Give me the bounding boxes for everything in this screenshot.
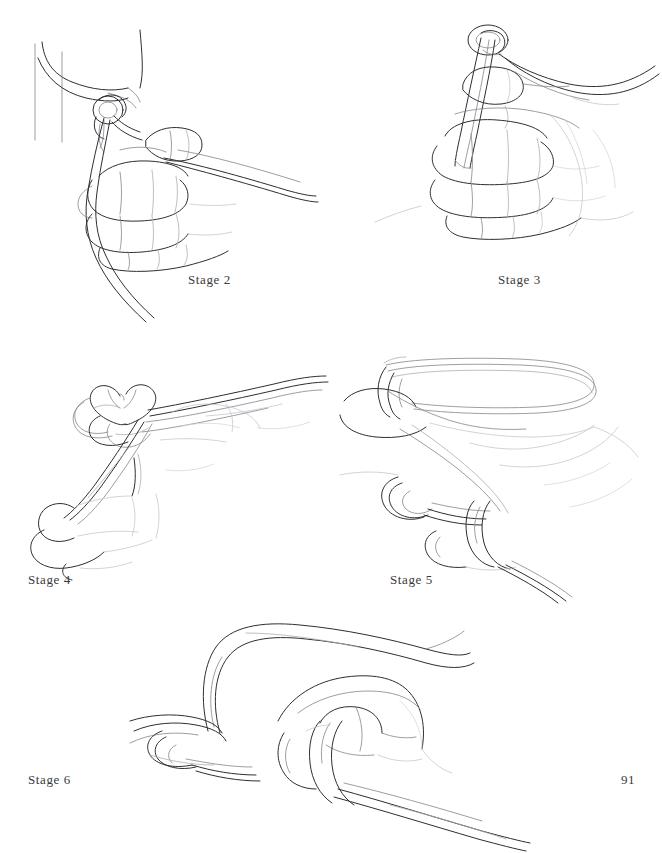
page-number: 91 (621, 772, 635, 788)
back-of-hand (400, 425, 638, 513)
palm-contour (549, 114, 633, 236)
rope-strands-right (142, 376, 328, 432)
left-loops (130, 715, 260, 781)
rope-turn-left (378, 367, 402, 419)
figure-stage-5 (340, 345, 662, 585)
caption-stage-2: Stage 2 (188, 272, 231, 288)
stage-5-illustration (340, 345, 662, 585)
ring-loop (468, 25, 508, 55)
captured-loop (340, 472, 490, 525)
standing-part (334, 783, 530, 851)
hitch-knot (93, 95, 142, 152)
stage-3-illustration (355, 10, 662, 290)
figure-stage-4 (20, 350, 340, 580)
fist (430, 120, 581, 240)
tangle-loops (73, 398, 150, 447)
caption-stage-5: Stage 5 (390, 572, 433, 588)
stray-rope-line (375, 206, 421, 222)
hand (31, 404, 310, 580)
rope-strands-upper-right (499, 54, 659, 105)
figure-stage-2 (0, 0, 340, 300)
rope-collar (278, 721, 354, 805)
fist (86, 147, 236, 271)
stage-2-illustration (0, 0, 340, 300)
rope-bight (384, 357, 596, 414)
fingertip (425, 531, 516, 570)
caption-stage-3: Stage 3 (498, 272, 541, 288)
book-page: Stage 2 Stage 3 Stage 4 Stage 5 Stage 6 … (0, 0, 662, 853)
stage-6-illustration (130, 605, 550, 815)
caption-stage-6: Stage 6 (28, 772, 71, 788)
figure-stage-6 (130, 605, 550, 815)
fist-top-view (278, 676, 452, 773)
figure-stage-3 (355, 10, 662, 290)
strands-lower-right (498, 561, 572, 603)
bight-loop (90, 385, 156, 425)
caption-stage-4: Stage 4 (28, 572, 71, 588)
stage-4-illustration (20, 350, 340, 580)
doubled-rope (455, 38, 495, 168)
thumb (146, 128, 202, 162)
